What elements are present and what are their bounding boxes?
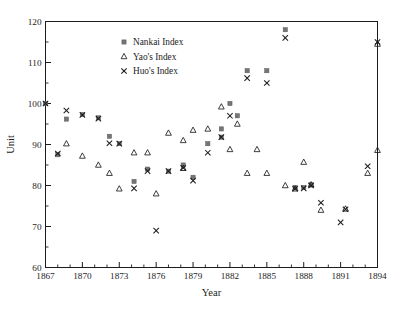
data-point-square bbox=[283, 28, 287, 32]
data-point-triangle bbox=[365, 170, 371, 175]
y-tick-label: 60 bbox=[32, 263, 42, 273]
data-point-square bbox=[64, 117, 68, 121]
data-point-square bbox=[228, 101, 232, 105]
y-tick-label: 120 bbox=[28, 17, 42, 27]
data-point-triangle bbox=[244, 170, 250, 175]
data-point-triangle bbox=[153, 191, 159, 196]
chart-canvas: 1867187018731876187918821885188818911894… bbox=[0, 0, 401, 310]
scatter-chart: 1867187018731876187918821885188818911894… bbox=[0, 0, 401, 310]
data-point-x bbox=[244, 75, 249, 80]
data-point-x bbox=[227, 113, 232, 118]
data-point-triangle bbox=[282, 182, 288, 187]
y-tick-label: 110 bbox=[28, 58, 42, 68]
x-tick-label: 1894 bbox=[368, 271, 387, 281]
legend-item-0[interactable]: Nankai Index bbox=[122, 37, 184, 47]
data-point-triangle bbox=[205, 126, 211, 131]
legend-item-label: Nankai Index bbox=[133, 37, 184, 47]
x-axis-title: Year bbox=[202, 287, 222, 298]
x-axis-major-ticks bbox=[46, 262, 378, 268]
data-point-square bbox=[245, 69, 249, 73]
series-0 bbox=[43, 28, 313, 190]
data-point-triangle bbox=[145, 150, 151, 155]
data-point-square bbox=[219, 127, 223, 131]
data-point-x bbox=[107, 141, 112, 146]
data-point-triangle bbox=[264, 170, 270, 175]
data-point-square bbox=[265, 69, 269, 73]
y-tick-label: 100 bbox=[28, 99, 42, 109]
data-point-x bbox=[131, 186, 136, 191]
series-2 bbox=[43, 35, 380, 233]
y-tick-label: 90 bbox=[32, 140, 42, 150]
data-point-triangle bbox=[107, 170, 113, 175]
x-tick-label: 1876 bbox=[147, 271, 166, 281]
data-series-layer bbox=[43, 28, 381, 234]
data-point-triangle bbox=[121, 53, 127, 58]
data-point-triangle bbox=[95, 162, 101, 167]
data-point-triangle bbox=[318, 207, 324, 212]
data-point-x bbox=[121, 68, 126, 73]
x-tick-label: 1891 bbox=[331, 271, 350, 281]
data-point-x bbox=[64, 108, 69, 113]
data-point-x bbox=[205, 150, 210, 155]
y-axis-title: Unit bbox=[5, 135, 16, 154]
x-tick-label: 1882 bbox=[221, 271, 240, 281]
y-axis-major-ticks bbox=[46, 22, 52, 268]
data-point-square bbox=[122, 40, 126, 44]
data-point-triangle bbox=[131, 150, 137, 155]
data-point-x bbox=[365, 164, 370, 169]
data-point-triangle bbox=[116, 186, 122, 191]
data-point-triangle bbox=[190, 127, 196, 132]
chart-legend: Nankai IndexYao's IndexHuo's Index bbox=[121, 37, 184, 76]
data-point-triangle bbox=[80, 153, 86, 158]
data-point-triangle bbox=[301, 159, 307, 164]
legend-item-label: Huo's Index bbox=[133, 66, 178, 76]
data-point-x bbox=[264, 80, 269, 85]
data-point-triangle bbox=[64, 141, 70, 146]
x-tick-label: 1885 bbox=[258, 271, 277, 281]
y-tick-label: 70 bbox=[32, 222, 42, 232]
data-point-square bbox=[206, 142, 210, 146]
data-point-x bbox=[153, 228, 158, 233]
legend-item-label: Yao's Index bbox=[133, 52, 177, 62]
data-point-square bbox=[107, 134, 111, 138]
y-tick-label: 80 bbox=[32, 181, 42, 191]
x-tick-label: 1873 bbox=[110, 271, 129, 281]
data-point-square bbox=[132, 179, 136, 183]
data-point-square bbox=[235, 114, 239, 118]
x-tick-label: 1879 bbox=[184, 271, 203, 281]
x-tick-label: 1888 bbox=[295, 271, 314, 281]
x-tick-label: 1870 bbox=[73, 271, 92, 281]
data-point-triangle bbox=[227, 146, 233, 151]
data-point-x bbox=[338, 220, 343, 225]
data-point-triangle bbox=[218, 104, 224, 109]
plot-frame bbox=[46, 22, 378, 268]
legend-item-1[interactable]: Yao's Index bbox=[121, 52, 177, 62]
data-point-triangle bbox=[166, 130, 172, 135]
data-point-x bbox=[283, 35, 288, 40]
data-point-x bbox=[318, 200, 323, 205]
x-axis-tick-labels: 1867187018731876187918821885188818911894 bbox=[36, 271, 387, 281]
y-axis-tick-labels: 60708090100110120 bbox=[28, 17, 42, 273]
data-point-triangle bbox=[254, 146, 260, 151]
data-point-triangle bbox=[180, 137, 186, 142]
data-point-triangle bbox=[234, 121, 240, 126]
legend-item-2[interactable]: Huo's Index bbox=[121, 66, 178, 76]
